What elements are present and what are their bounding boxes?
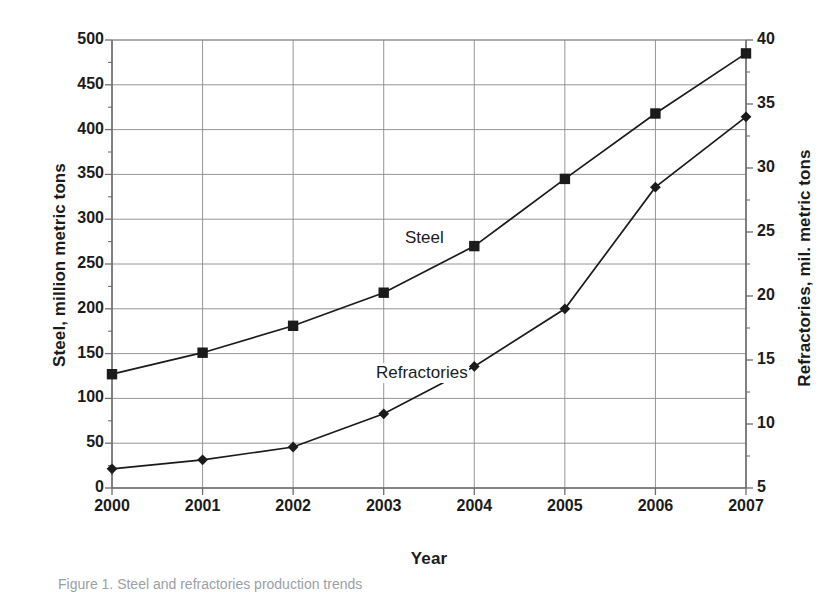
series-label-steel: Steel <box>404 228 445 248</box>
x-axis-tick-label: 2001 <box>163 497 243 515</box>
left-axis-tick-label: 450 <box>46 75 104 93</box>
right-axis-tick-label: 30 <box>757 158 815 176</box>
x-axis-tick-label: 2005 <box>525 497 605 515</box>
series-label-refractories: Refractories <box>375 363 469 383</box>
right-axis-tick-label: 5 <box>757 478 815 496</box>
right-axis-tick-label: 25 <box>757 222 815 240</box>
data-point-refractories <box>107 463 118 474</box>
data-point-steel <box>107 369 117 379</box>
right-axis-tick-label: 35 <box>757 94 815 112</box>
left-axis-tick-label: 300 <box>46 209 104 227</box>
left-axis-tick-label: 100 <box>46 388 104 406</box>
x-axis-tick-label: 2006 <box>615 497 695 515</box>
figure-caption: Figure 1. Steel and refractories product… <box>58 576 758 592</box>
x-axis-tick-label: 2007 <box>706 497 786 515</box>
data-point-steel <box>197 348 207 358</box>
x-axis-tick-label: 2000 <box>72 497 152 515</box>
x-axis-tick-label: 2002 <box>253 497 333 515</box>
right-axis-tick-label: 20 <box>757 286 815 304</box>
left-axis-tick-label: 50 <box>46 433 104 451</box>
x-axis-tick-label: 2003 <box>344 497 424 515</box>
data-point-steel <box>469 241 479 251</box>
right-axis-tick-label: 15 <box>757 350 815 368</box>
left-axis-tick-label: 250 <box>46 254 104 272</box>
series-line-refractories <box>112 117 746 469</box>
left-axis-tick-label: 350 <box>46 164 104 182</box>
series-line-steel <box>112 53 746 374</box>
left-axis-tick-label: 500 <box>46 30 104 48</box>
data-point-steel <box>650 108 660 118</box>
left-axis-tick-label: 150 <box>46 344 104 362</box>
left-axis-tick-label: 400 <box>46 120 104 138</box>
data-point-steel <box>741 48 751 58</box>
data-point-refractories <box>378 408 389 419</box>
right-axis-tick-label: 40 <box>757 30 815 48</box>
left-axis-tick-label: 200 <box>46 299 104 317</box>
series-markers-group <box>107 48 752 474</box>
x-axis-tick-label: 2004 <box>434 497 514 515</box>
data-point-steel <box>288 321 298 331</box>
left-axis-tick-label: 0 <box>46 478 104 496</box>
right-axis-tick-label: 10 <box>757 414 815 432</box>
data-point-steel <box>560 174 570 184</box>
data-point-refractories <box>469 361 480 372</box>
data-point-refractories <box>197 454 208 465</box>
data-point-steel <box>379 288 389 298</box>
gridlines-group <box>112 40 746 488</box>
